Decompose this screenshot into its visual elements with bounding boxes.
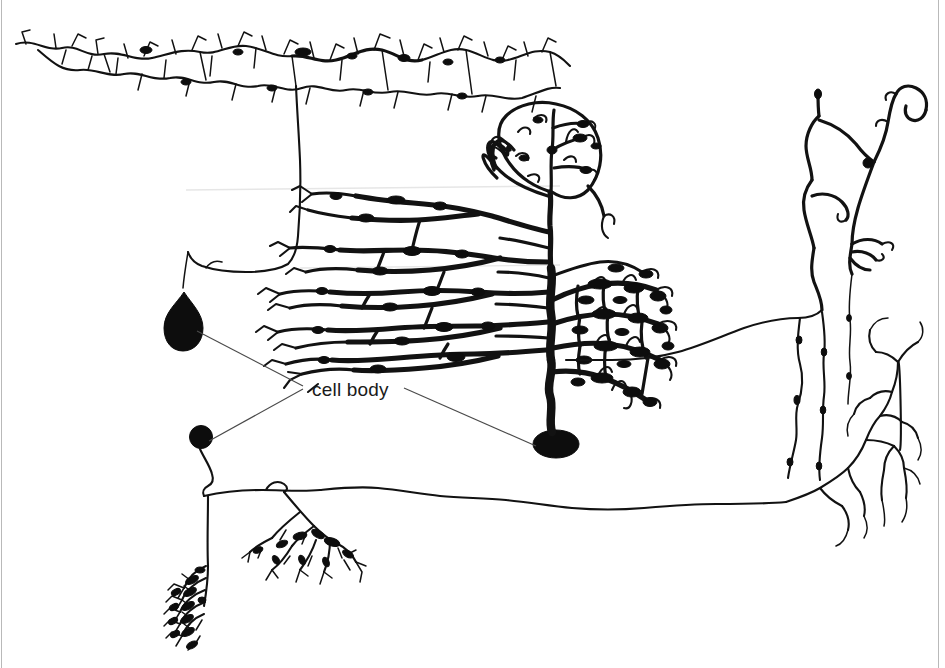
neuron-drawing-canvas: cell body <box>0 0 945 668</box>
lower-left-granule-soma <box>190 426 213 449</box>
cell-body-label: cell body <box>312 379 389 400</box>
purkinje-soma <box>533 430 579 458</box>
neuron-figure: cell body <box>0 0 945 668</box>
